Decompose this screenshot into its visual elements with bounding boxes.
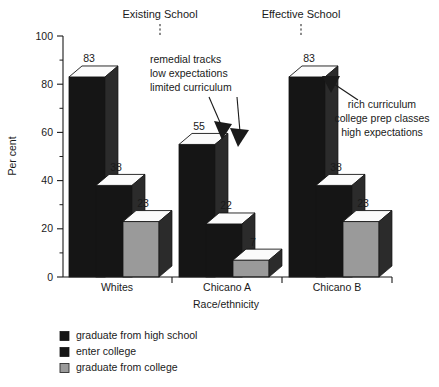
x-tick-label-whites: Whites [101,281,133,293]
rich-line-3: high expectations [341,126,423,138]
bar-value-label: 23 [137,197,149,209]
bar-front-face [123,222,159,277]
remedial-line-1: remedial tracks [150,53,221,65]
y-tick-label-40: 40 [41,174,53,186]
remedial-arrow-2-line [237,97,240,132]
x-tick-label-group: WhitesChicano AChicano B [101,281,361,293]
bar-side-face [159,211,172,277]
chart-svg: Existing School Effective School 0204060… [0,0,439,387]
legend-swatch-0 [60,332,69,341]
y-tick-group: 020406080100 [35,30,63,283]
bar-value-label: 83 [303,52,315,64]
rich-line-2: college prep classes [334,112,429,124]
legend-swatch-1 [60,348,69,357]
legend-swatch-2 [60,364,69,373]
legend-label-1: enter college [76,345,136,357]
bar-value-label: 7 [250,236,256,248]
remedial-arrow-2-head [230,128,249,147]
legend-label-0: graduate from high school [76,329,197,341]
y-tick-label-20: 20 [41,222,53,234]
x-axis-title: Race/ethnicity [193,298,260,310]
x-tick-label-chicano-a: Chicano A [203,281,251,293]
y-tick-label-0: 0 [47,271,53,283]
bar-chicano-b-series-2 [343,211,392,277]
bar-chart: Existing School Effective School 0204060… [0,0,439,387]
y-axis: 020406080100 Per cent [6,30,63,283]
bar-front-face [343,222,379,277]
y-tick-label-80: 80 [41,78,53,90]
y-tick-label-100: 100 [35,30,53,42]
legend: graduate from high schoolenter collegegr… [60,329,197,373]
bar-value-label: 38 [330,161,342,173]
remedial-line-3: limited curriculum [150,81,232,93]
remedial-annotation: remedial tracks low expectations limited… [150,53,249,147]
rich-line-1: rich curriculum [348,98,417,110]
bar-whites-series-2 [123,211,172,277]
bar-value-label: 83 [83,52,95,64]
bar-value-label: 38 [110,161,122,173]
bar-side-face [379,211,392,277]
annotation-existing-school: Existing School [122,8,197,20]
bar-value-label: 55 [193,120,205,132]
legend-label-2: graduate from college [76,361,178,373]
bar-front-face [233,260,269,277]
remedial-line-2: low expectations [150,67,228,79]
annotation-effective-school: Effective School [262,8,341,20]
y-tick-label-60: 60 [41,126,53,138]
bar-value-label: 22 [220,199,232,211]
y-axis-title: Per cent [6,136,18,175]
bar-value-label: 23 [357,197,369,209]
x-axis: WhitesChicano AChicano B Race/ethnicity [63,277,392,310]
x-tick-label-chicano-b: Chicano B [313,281,361,293]
